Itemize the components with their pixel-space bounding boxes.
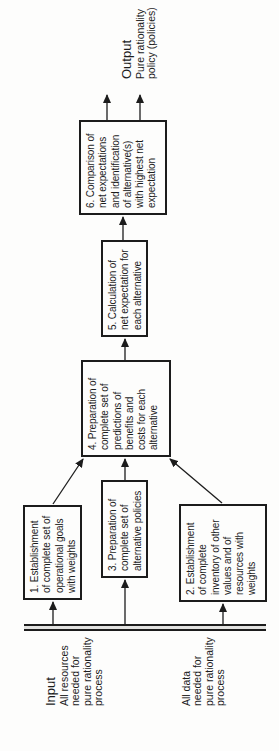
step6-box: 6. Comparison of net expectations and id… [79, 120, 167, 215]
output-label-block: Output Pure rationality policy (policies… [120, 7, 158, 79]
input-bus-double-line [24, 624, 266, 631]
step3-text: 3. Preparation of complete set of altern… [103, 482, 144, 576]
rotated-diagram-stage: Input All resources needed for pure rati… [0, 0, 279, 751]
step6-text: 6. Comparison of net expectations and id… [81, 122, 159, 213]
output-heading: Output [120, 7, 134, 79]
step4-box: 4. Preparation of complete set of predic… [81, 360, 171, 457]
input-resources-text: All resources needed for pure rationalit… [59, 637, 105, 706]
step5-box: 5. Calculation of net expectation for ea… [101, 240, 148, 337]
step3-box: 3. Preparation of complete set of altern… [101, 480, 148, 578]
step5-text: 5. Calculation of net expectation for ea… [103, 242, 144, 335]
step1-text: 1. Establishment of complete set of oper… [25, 507, 78, 598]
step2-text: 2. Establishment of complete inventory o… [181, 506, 259, 600]
input-data-text: All data needed for pure rationality pro… [181, 637, 227, 706]
arrow-step2-to-step4 [170, 459, 222, 503]
output-text: Pure rationality policy (policies) [135, 7, 158, 79]
scanned-flow-diagram: Input All resources needed for pure rati… [0, 0, 279, 751]
step2-box: 2. Establishment of complete inventory o… [179, 504, 267, 602]
input-label-block: Input All resources needed for pure rati… [44, 637, 105, 706]
input-data-label-block: All data needed for pure rationality pro… [181, 637, 227, 706]
input-heading: Input [44, 637, 58, 706]
step1-box: 1. Establishment of complete set of oper… [23, 505, 82, 600]
step4-text: 4. Preparation of complete set of predic… [83, 362, 161, 455]
arrow-step1-to-step4 [53, 459, 83, 504]
